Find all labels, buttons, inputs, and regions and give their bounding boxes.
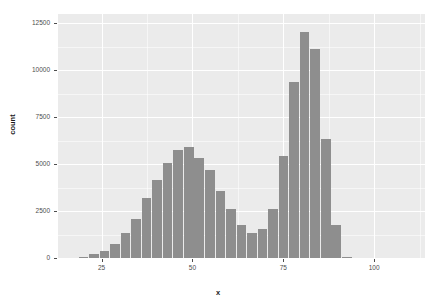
y-tick-label: 5000: [16, 160, 50, 167]
y-tick-mark: [54, 211, 57, 212]
gridline-minor-y: [58, 94, 425, 95]
x-tick-mark: [102, 259, 103, 262]
histogram-bar: [100, 251, 110, 259]
y-tick-mark: [54, 23, 57, 24]
gridline-major-y: [58, 70, 425, 71]
histogram-bar: [110, 244, 120, 258]
x-tick-label: 50: [179, 264, 205, 271]
histogram-bar: [300, 32, 310, 258]
y-tick-mark: [54, 70, 57, 71]
x-tick-mark: [283, 259, 284, 262]
gridline-major-x: [374, 14, 375, 258]
histogram-bar: [131, 219, 141, 258]
histogram-bar: [258, 229, 268, 258]
y-tick-label: 10000: [16, 66, 50, 73]
histogram-bar: [205, 170, 215, 258]
x-tick-mark: [192, 259, 193, 262]
gridline-major-y: [58, 211, 425, 212]
histogram-bar: [163, 163, 173, 258]
histogram-bar: [289, 82, 299, 258]
histogram-bar: [142, 198, 152, 258]
histogram-bar: [194, 158, 204, 258]
gridline-major-y: [58, 164, 425, 165]
y-tick-label: 0: [16, 254, 50, 261]
histogram-bar: [310, 49, 320, 258]
gridline-major-y: [58, 23, 425, 24]
gridline-minor-y: [58, 188, 425, 189]
histogram-bar: [173, 150, 183, 258]
plot-panel: [58, 14, 425, 258]
histogram-bar: [268, 209, 278, 258]
histogram-bar: [226, 209, 236, 258]
gridline-major-x: [102, 14, 103, 258]
gridline-minor-x: [420, 14, 421, 258]
y-tick-mark: [54, 164, 57, 165]
y-tick-label: 12500: [16, 19, 50, 26]
y-tick-label: 2500: [16, 207, 50, 214]
y-tick-label: 7500: [16, 113, 50, 120]
gridline-minor-y: [58, 141, 425, 142]
x-tick-label: 75: [270, 264, 296, 271]
x-tick-label: 25: [89, 264, 115, 271]
histogram-bar: [79, 257, 89, 258]
y-tick-mark: [54, 117, 57, 118]
histogram-bar: [331, 225, 341, 258]
histogram-bar: [152, 180, 162, 258]
histogram-bar: [247, 233, 257, 258]
x-tick-label: 100: [361, 264, 387, 271]
histogram-bar: [89, 254, 99, 258]
histogram-bar: [216, 191, 226, 258]
histogram-bar: [237, 225, 247, 258]
histogram-bar: [279, 156, 289, 258]
histogram-bar: [342, 257, 352, 258]
y-tick-mark: [54, 258, 57, 259]
histogram-bar: [321, 139, 331, 258]
histogram-chart: 02500500075001000012500 255075100 x coun…: [0, 0, 436, 304]
histogram-bar: [121, 233, 131, 258]
x-tick-mark: [374, 259, 375, 262]
gridline-major-y: [58, 117, 425, 118]
x-axis-title: x: [0, 288, 436, 297]
gridline-minor-x: [238, 14, 239, 258]
y-axis-title: count: [8, 95, 17, 155]
gridline-minor-y: [58, 47, 425, 48]
histogram-bar: [184, 147, 194, 258]
